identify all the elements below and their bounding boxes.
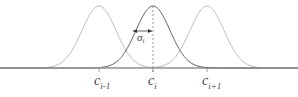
rbf-diagram: σi ci-1cici+1 bbox=[0, 0, 298, 97]
center-labels: ci-1cici+1 bbox=[94, 73, 221, 91]
center-label-i+1: ci+1 bbox=[202, 73, 221, 91]
center-label-i-1: ci-1 bbox=[94, 73, 110, 91]
gaussian-curve-i-1 bbox=[0, 6, 298, 68]
sigma-label: σi bbox=[137, 31, 144, 45]
gaussian-curve-i+1 bbox=[0, 6, 298, 68]
gaussian-curves bbox=[0, 6, 298, 68]
center-label-i: ci bbox=[148, 73, 157, 91]
gaussian-curve-i bbox=[0, 6, 298, 68]
sigma-arrow bbox=[133, 29, 152, 33]
